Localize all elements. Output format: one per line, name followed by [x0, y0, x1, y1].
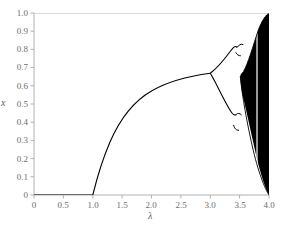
- plot-canvas: [0, 0, 286, 234]
- ytick-label-0.8: 0.8: [4, 45, 28, 54]
- ytick-label-0.5: 0.5: [4, 100, 28, 109]
- ytick-label-0.1: 0.1: [4, 173, 28, 182]
- period-2-lower-branch: [210, 73, 236, 115]
- ytick-label-0.2: 0.2: [4, 155, 28, 164]
- ytick-label-0.9: 0.9: [4, 27, 28, 36]
- xtick-label-2.0: 2.0: [139, 201, 163, 210]
- period-three-window: [256, 26, 257, 172]
- bifurcation-diagram-figure: 1.0 0.9 0.8 0.7 0.6 0.5 0.4 0.3 0.2 0.1 …: [0, 0, 286, 234]
- xtick-label-3.0: 3.0: [198, 201, 222, 210]
- xtick-label-0: 0: [22, 201, 46, 210]
- xtick-label-0.5: 0.5: [51, 201, 75, 210]
- x-tick-marks: [34, 195, 269, 199]
- xtick-label-2.5: 2.5: [169, 201, 193, 210]
- period-2-upper-branch: [210, 46, 237, 73]
- xtick-label-4.0: 4.0: [257, 201, 281, 210]
- axis-spines: [34, 13, 269, 195]
- ytick-label-1.0: 1.0: [4, 9, 28, 18]
- x-axis-title: λ: [148, 211, 152, 221]
- ytick-label-0.6: 0.6: [4, 82, 28, 91]
- ytick-label-0.3: 0.3: [4, 136, 28, 145]
- bifurcation-data: [34, 13, 269, 195]
- y-tick-marks: [31, 13, 35, 195]
- xtick-label-3.5: 3.5: [228, 201, 252, 210]
- xtick-label-1.0: 1.0: [81, 201, 105, 210]
- ytick-label-0: 0: [4, 191, 28, 200]
- y-axis-title: x: [1, 98, 5, 108]
- ytick-label-0.7: 0.7: [4, 63, 28, 72]
- xtick-label-1.5: 1.5: [110, 201, 134, 210]
- ytick-label-0.4: 0.4: [4, 118, 28, 127]
- fixed-point-branch: [93, 73, 211, 195]
